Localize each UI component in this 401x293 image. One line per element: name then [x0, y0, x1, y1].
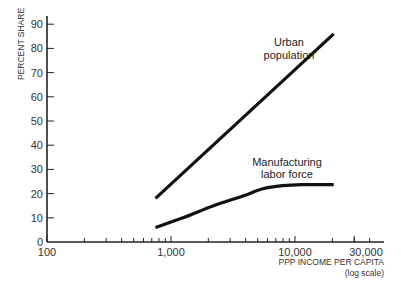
x-axis-scale-note: (log scale) [345, 268, 384, 278]
y-tick-label: 70 [31, 67, 43, 79]
x-tick-label: 1,000 [157, 246, 185, 258]
y-tick-label: 40 [31, 139, 43, 151]
manufacturing-label: Manufacturing [252, 156, 322, 168]
urban-population-label: Urban [274, 36, 304, 48]
y-tick-label: 60 [31, 91, 43, 103]
y-tick-label: 90 [31, 18, 43, 30]
series-lines [156, 34, 334, 228]
y-tick-label: 80 [31, 42, 43, 54]
x-axis-title: PPP INCOME PER CAPITA [279, 257, 385, 267]
urban-population-label-line2: population [264, 49, 315, 61]
y-tick-label: 20 [31, 188, 43, 200]
y-axis-ticks: 0102030405060708090 [31, 18, 54, 248]
manufacturing-labor-force-line [156, 185, 334, 228]
y-axis-title: PERCENT SHARE [16, 8, 26, 80]
x-tick-label: 100 [38, 246, 56, 258]
y-tick-label: 10 [31, 212, 43, 224]
y-tick-label: 30 [31, 163, 43, 175]
manufacturing-label-line2: labor force [261, 168, 313, 180]
x-axis-ticks: 1001,00010,00030,000 [38, 236, 383, 258]
y-tick-label: 50 [31, 115, 43, 127]
line-chart: 0102030405060708090 1001,00010,00030,000… [0, 0, 401, 293]
